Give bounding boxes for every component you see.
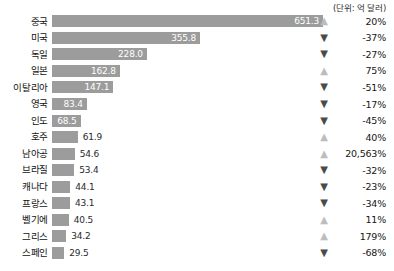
bar-value-label: 29.5 [69,247,88,259]
change-percent-label: -32% [330,165,386,176]
bar [52,181,70,193]
chart-row: 스페인29.5▼-68% [0,245,394,262]
change-percent-label: -68% [330,247,386,258]
bar-track: 147.1▼-51% [52,79,394,96]
chart-row: 호주61.9▲40% [0,129,394,146]
change-cell: ▲11% [310,212,394,229]
change-cell: ▼-34% [310,195,394,212]
chart-row: 일본162.8▲75% [0,63,394,80]
category-label: 미국 [0,33,52,43]
arrow-up-icon: ▲ [318,149,330,159]
bar-track: 651.3▲20% [52,13,394,30]
category-label: 이탈리아 [0,83,52,93]
change-cell: ▼-17% [310,96,394,113]
chart-row: 독일228.0▼-27% [0,46,394,63]
category-label: 캐나다 [0,182,52,192]
bar-value-label: 162.8 [52,65,116,77]
arrow-up-icon: ▲ [318,16,330,26]
arrow-down-icon: ▼ [318,33,330,43]
chart-row: 그리스34.2▲179% [0,228,394,245]
change-cell: ▼-37% [310,30,394,47]
arrow-up-icon: ▲ [318,132,330,142]
change-cell: ▼-32% [310,162,394,179]
change-cell: ▼-23% [310,178,394,195]
arrow-up-icon: ▲ [318,231,330,241]
arrow-down-icon: ▼ [318,182,330,192]
bar-track: 228.0▼-27% [52,46,394,63]
bar-track: 162.8▲75% [52,63,394,80]
category-label: 벨기에 [0,215,52,225]
category-label: 일본 [0,66,52,76]
change-cell: ▲179% [310,228,394,245]
bar-track: 44.1▼-23% [52,178,394,195]
bar [52,197,70,209]
bar-track: 355.8▼-37% [52,30,394,47]
bar-value-label: 68.5 [52,115,77,127]
change-percent-label: -45% [330,115,386,126]
arrow-down-icon: ▼ [318,49,330,59]
change-percent-label: 11% [330,214,386,225]
arrow-up-icon: ▲ [318,215,330,225]
arrow-down-icon: ▼ [318,248,330,258]
bar-track: 61.9▲40% [52,129,394,146]
bar-value-label: 43.1 [75,197,94,209]
bar [52,148,75,160]
category-label: 남아공 [0,149,52,159]
bar-value-label: 147.1 [52,81,109,93]
change-percent-label: -51% [330,82,386,93]
bar-track: 40.5▲11% [52,212,394,229]
chart-row: 영국83.4▼-17% [0,96,394,113]
bar-value-label: 40.5 [74,214,93,226]
category-label: 프랑스 [0,199,52,209]
change-percent-label: -37% [330,32,386,43]
change-percent-label: -34% [330,198,386,209]
change-cell: ▲75% [310,63,394,80]
bar-track: 34.2▲179% [52,228,394,245]
change-percent-label: -27% [330,49,386,60]
bar [52,164,74,176]
chart-row: 남아공54.6▲20,563% [0,145,394,162]
bar-value-label: 355.8 [52,32,196,44]
bar [52,214,69,226]
category-label: 중국 [0,17,52,27]
arrow-up-icon: ▲ [318,66,330,76]
category-label: 호주 [0,132,52,142]
bar-value-label: 34.2 [71,230,90,242]
category-label: 스페인 [0,248,52,258]
change-cell: ▲20% [310,13,394,30]
change-cell: ▼-27% [310,46,394,63]
bar-track: 43.1▼-34% [52,195,394,212]
chart-row: 브라질53.4▼-32% [0,162,394,179]
chart-row: 벨기에40.5▲11% [0,212,394,229]
chart-row: 미국355.8▼-37% [0,30,394,47]
category-label: 영국 [0,99,52,109]
bar-value-label: 651.3 [52,15,319,27]
bar-value-label: 54.6 [80,148,99,160]
category-label: 독일 [0,50,52,60]
bar [52,131,78,143]
chart-row: 캐나다44.1▼-23% [0,178,394,195]
chart-rows: 중국651.3▲20%미국355.8▼-37%독일228.0▼-27%일본162… [0,13,394,261]
bar-chart: (단위: 억 달러) 중국651.3▲20%미국355.8▼-37%독일228.… [0,0,394,271]
change-percent-label: 179% [330,231,386,242]
change-cell: ▲20,563% [310,145,394,162]
change-percent-label: 75% [330,65,386,76]
category-label: 그리스 [0,232,52,242]
bar-track: 54.6▲20,563% [52,145,394,162]
unit-caption: (단위: 억 달러) [333,1,386,13]
bar [52,230,66,242]
chart-row: 이탈리아147.1▼-51% [0,79,394,96]
change-percent-label: 40% [330,132,386,143]
arrow-down-icon: ▼ [318,82,330,92]
arrow-down-icon: ▼ [318,165,330,175]
bar [52,247,64,259]
chart-row: 중국651.3▲20% [0,13,394,30]
chart-row: 인도68.5▼-45% [0,112,394,129]
change-percent-label: -23% [330,181,386,192]
bar-track: 68.5▼-45% [52,112,394,129]
category-label: 인도 [0,116,52,126]
change-percent-label: -17% [330,99,386,110]
bar-value-label: 53.4 [79,164,98,176]
change-cell: ▲40% [310,129,394,146]
bar-value-label: 61.9 [83,131,102,143]
